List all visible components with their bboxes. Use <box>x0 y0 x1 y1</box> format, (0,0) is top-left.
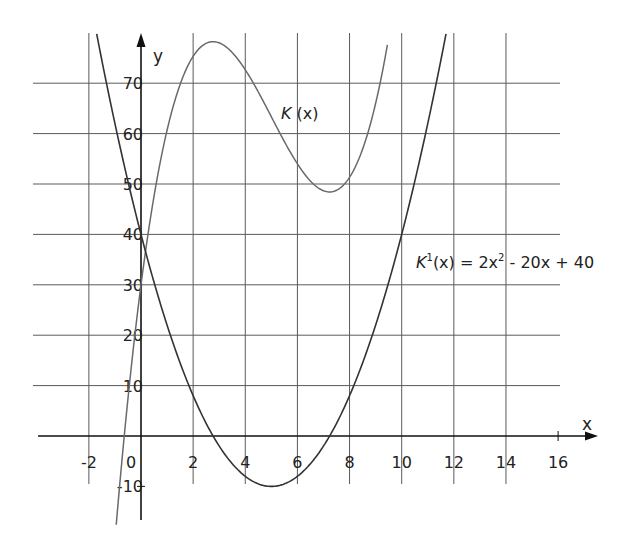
x-tick-label: 10 <box>392 453 412 472</box>
chart: -20246810121416-1010203040506070 x y K (… <box>0 0 627 544</box>
y-axis-label: y <box>153 46 163 66</box>
x-tick-label: -2 <box>81 453 97 472</box>
y-tick-label: 50 <box>123 175 143 194</box>
k-curve-label: K (x) <box>281 104 319 123</box>
x-tick-label: 2 <box>188 453 198 472</box>
y-axis-arrow-icon <box>137 33 146 47</box>
x-tick-label: 16 <box>548 453 568 472</box>
kp-mid: (x) = 2x <box>433 253 498 272</box>
y-tick-label: 10 <box>123 377 143 396</box>
y-tick-label: 60 <box>123 125 143 144</box>
x-tick-label: 0 <box>126 453 136 472</box>
k-prime-formula-label: K1(x) = 2x2 - 20x + 40 <box>416 252 594 272</box>
x-axis-label: x <box>582 414 592 434</box>
kp-tail: - 20x + 40 <box>504 253 594 272</box>
k-label-rest: (x) <box>292 104 319 123</box>
x-tick-label: 4 <box>240 453 250 472</box>
y-tick-label: 20 <box>123 326 143 345</box>
y-tick-label: 70 <box>123 74 143 93</box>
x-tick-label: 12 <box>444 453 464 472</box>
curve-k-prime <box>97 34 446 486</box>
x-tick-label: 14 <box>496 453 516 472</box>
x-tick-label: 8 <box>344 453 354 472</box>
x-tick-label: 6 <box>292 453 302 472</box>
